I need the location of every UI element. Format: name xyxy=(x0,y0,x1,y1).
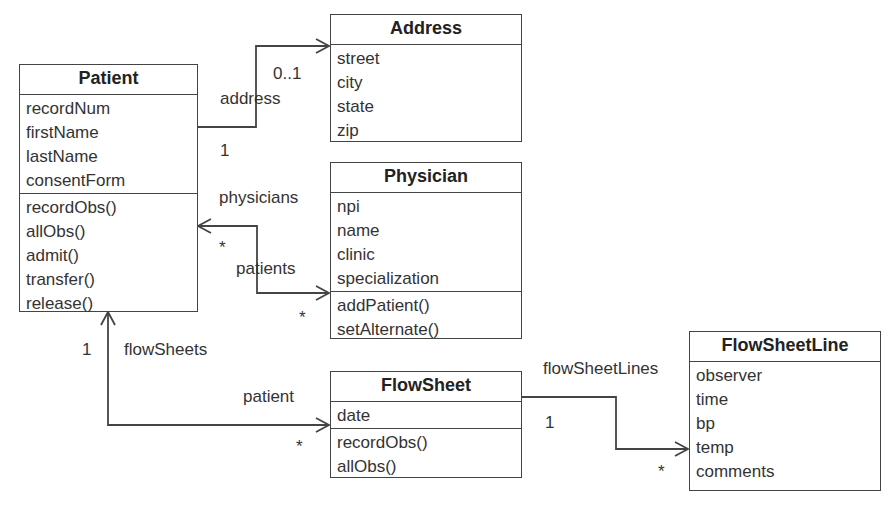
multiplicity-flowsheetlines-source: 1 xyxy=(545,413,554,433)
arrowhead-physician-patients xyxy=(316,286,329,300)
attributes-section: recordNum firstName lastName consentForm xyxy=(20,95,197,193)
operation: setAlternate() xyxy=(337,318,521,342)
attributes-section: street city state zip xyxy=(331,45,521,143)
association-patient-flowsheet xyxy=(108,312,329,425)
attribute: state xyxy=(337,95,521,119)
operation: addPatient() xyxy=(337,294,521,318)
operations-section: recordObs() allObs() admit() transfer() … xyxy=(20,193,197,316)
arrowhead-flowsheetline xyxy=(675,442,688,456)
class-flowsheet[interactable]: FlowSheet date recordObs() allObs() xyxy=(330,371,522,478)
multiplicity-flowsheet: * xyxy=(296,437,303,457)
class-name: FlowSheet xyxy=(331,372,521,402)
operation: allObs() xyxy=(337,455,521,479)
class-flowsheetline[interactable]: FlowSheetLine observer time bp temp comm… xyxy=(689,331,881,491)
operation: admit() xyxy=(26,244,197,268)
attribute: time xyxy=(696,388,880,412)
association-patient-address xyxy=(197,46,329,127)
role-patient: patient xyxy=(243,387,294,407)
attribute: clinic xyxy=(337,243,521,267)
attributes-section: date xyxy=(331,402,521,428)
operation: recordObs() xyxy=(337,431,521,455)
uml-class-diagram: Patient recordNum firstName lastName con… xyxy=(0,0,895,509)
role-address: address xyxy=(220,89,280,109)
arrowhead-flowsheet-patient xyxy=(316,418,329,432)
role-flowsheetlines: flowSheetLines xyxy=(543,359,658,379)
attribute: street xyxy=(337,47,521,71)
attribute: city xyxy=(337,71,521,95)
attributes-section: npi name clinic specialization xyxy=(331,193,521,291)
operations-section: recordObs() allObs() xyxy=(331,428,521,479)
class-name: FlowSheetLine xyxy=(690,332,880,362)
attribute: specialization xyxy=(337,267,521,291)
multiplicity-address-source: 1 xyxy=(220,141,229,161)
arrowhead-patient-physicians xyxy=(198,219,211,233)
class-patient[interactable]: Patient recordNum firstName lastName con… xyxy=(19,64,198,312)
operation: recordObs() xyxy=(26,196,197,220)
attribute: zip xyxy=(337,119,521,143)
role-flowsheets: flowSheets xyxy=(124,340,207,360)
attribute: temp xyxy=(696,436,880,460)
operation: release() xyxy=(26,292,197,316)
operations-section: addPatient() setAlternate() xyxy=(331,291,521,342)
class-address[interactable]: Address street city state zip xyxy=(330,14,522,142)
role-physicians: physicians xyxy=(219,188,298,208)
class-physician[interactable]: Physician npi name clinic specialization… xyxy=(330,162,522,339)
attribute: date xyxy=(337,404,521,428)
attribute: recordNum xyxy=(26,97,197,121)
attributes-section: observer time bp temp comments xyxy=(690,362,880,484)
attribute: lastName xyxy=(26,145,197,169)
multiplicity-address-target: 0..1 xyxy=(273,64,301,84)
multiplicity-flowsheetlines-target: * xyxy=(658,462,665,482)
operation: transfer() xyxy=(26,268,197,292)
class-name: Address xyxy=(331,15,521,45)
arrowhead-address xyxy=(316,39,329,53)
attribute: consentForm xyxy=(26,169,197,193)
attribute: comments xyxy=(696,460,880,484)
class-name: Physician xyxy=(331,163,521,193)
attribute: firstName xyxy=(26,121,197,145)
attribute: bp xyxy=(696,412,880,436)
multiplicity-flowsheets: 1 xyxy=(82,340,91,360)
operation: allObs() xyxy=(26,220,197,244)
multiplicity-physicians: * xyxy=(219,238,226,258)
multiplicity-patients: * xyxy=(299,308,306,328)
role-patients: patients xyxy=(236,259,296,279)
class-name: Patient xyxy=(20,65,197,95)
attribute: observer xyxy=(696,364,880,388)
attribute: npi xyxy=(337,195,521,219)
attribute: name xyxy=(337,219,521,243)
